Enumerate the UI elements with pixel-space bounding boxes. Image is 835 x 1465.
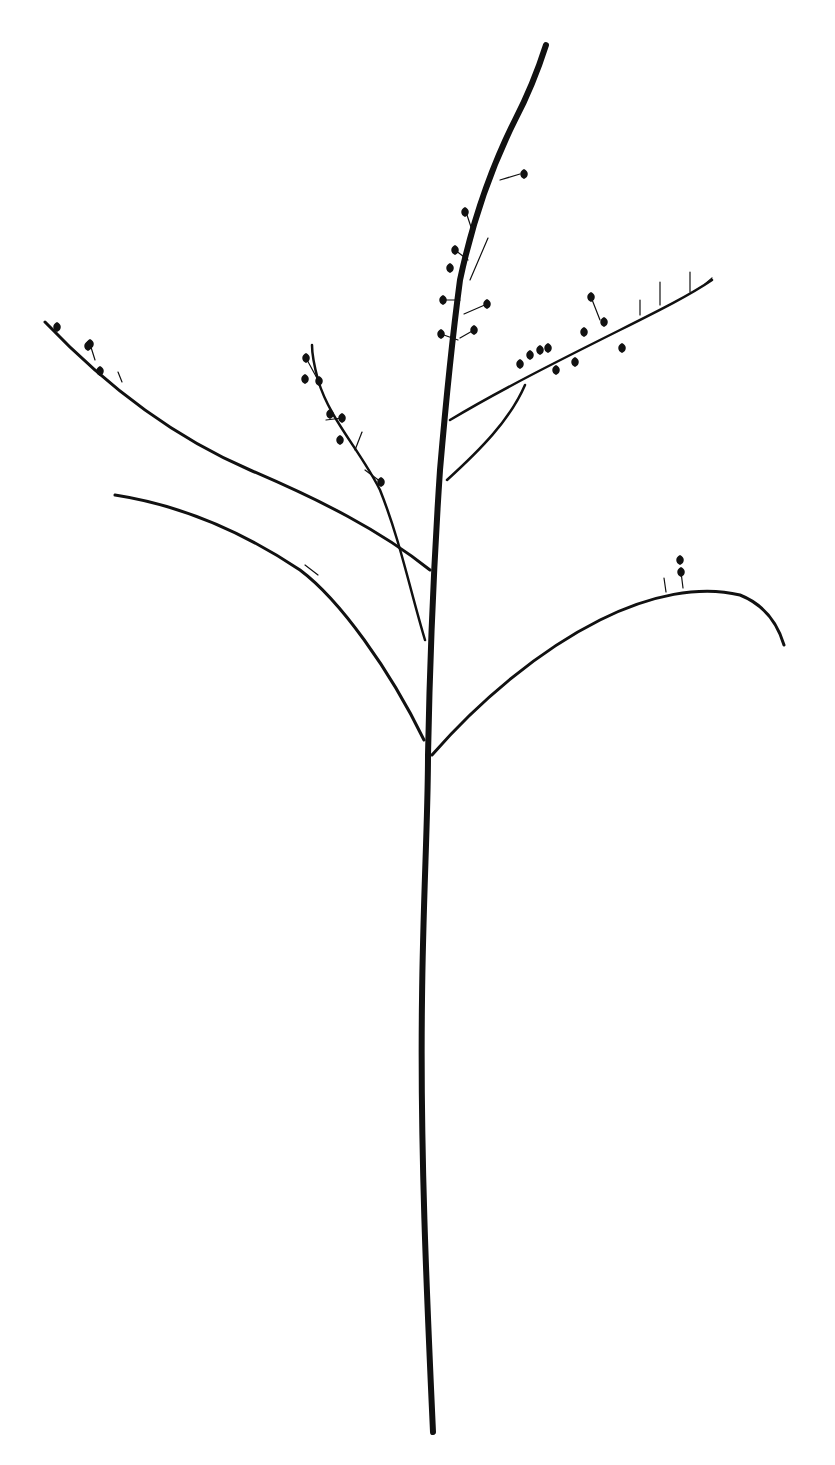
seed-pod [536,345,544,355]
twig [305,565,318,575]
seed-pod [437,329,445,339]
seed-pod [446,263,454,273]
seed-pod [552,365,560,375]
seed-pod [520,169,528,179]
plant-silhouette-image [0,0,835,1465]
plant-silhouette [0,0,835,1465]
seed-pod [301,374,309,384]
seed-pod [470,325,478,335]
seed-pod [571,357,579,367]
seed-pod [302,353,310,363]
twig [500,174,520,180]
seed-pod [326,409,334,419]
seed-pod [676,555,684,565]
seed-pod [618,343,626,353]
seed-pod [338,413,346,423]
right-lower-branch [432,591,784,755]
twig [355,432,362,450]
seed-pod [516,359,524,369]
seed-pod [587,292,595,302]
twigs [90,174,712,592]
seed-pod [439,295,447,305]
seed-pod [580,327,588,337]
twig [118,372,122,382]
twig [664,578,666,592]
left-lower-branch [115,495,424,740]
seed-pod [677,567,685,577]
branches [45,280,784,755]
main-stem [422,45,546,1432]
seed-pods [53,169,685,577]
seed-pod [544,343,552,353]
seed-pod [600,317,608,327]
twig [470,238,488,280]
seed-pod [96,366,104,376]
seed-pod [483,299,491,309]
seed-pod [526,350,534,360]
seed-pod [451,245,459,255]
seed-pod [336,435,344,445]
